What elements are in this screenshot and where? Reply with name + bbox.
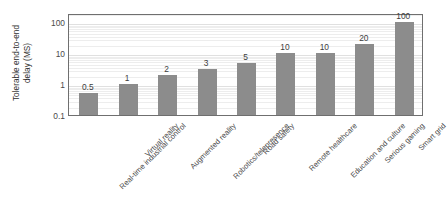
bar — [316, 53, 335, 115]
y-axis-tick-labels: 1001010.1 — [20, 0, 65, 223]
bar — [276, 53, 295, 115]
bar — [119, 84, 138, 115]
x-axis-category-label: Real-time industrial control — [118, 122, 188, 192]
bar — [355, 44, 374, 115]
x-axis-category-label: Augmented reality — [189, 122, 238, 171]
y-axis-tick-label: 1 — [21, 81, 65, 89]
y-axis-tick-label: 0.1 — [21, 112, 65, 120]
y-axis-tick-label: 100 — [21, 19, 65, 27]
plot-area — [68, 14, 423, 116]
x-axis-category-label: Remote healthcare — [308, 122, 359, 173]
bar — [158, 75, 177, 115]
bar — [395, 22, 414, 115]
x-axis-category-labels: Real-time industrial controlVirtual real… — [68, 116, 423, 223]
bar — [237, 63, 256, 116]
bars-layer — [69, 15, 422, 115]
y-axis-tick-label: 10 — [21, 50, 65, 58]
bar — [79, 93, 98, 115]
bar — [198, 69, 217, 115]
